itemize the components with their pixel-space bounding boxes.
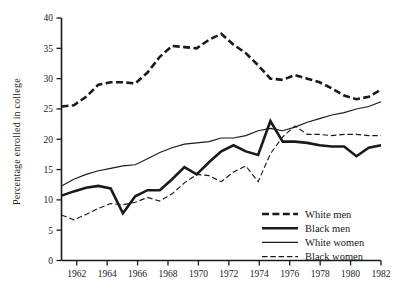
line-chart: Percentage enrolled in college 051015202… xyxy=(0,0,396,307)
legend-label: Black women xyxy=(305,251,364,262)
series-line xyxy=(62,126,382,220)
y-tick-label: 0 xyxy=(48,256,53,266)
x-tick-label: 1962 xyxy=(67,269,86,279)
x-tick-label: 1976 xyxy=(280,269,299,279)
series-line xyxy=(62,34,382,107)
y-axis: 0510152025303540 xyxy=(44,13,62,266)
x-tick-label: 1966 xyxy=(128,269,147,279)
chart-figure: Percentage enrolled in college 051015202… xyxy=(0,0,396,307)
x-tick-group: 1962196419661968197019721974197619781980… xyxy=(67,261,391,280)
x-tick-label: 1968 xyxy=(159,269,178,279)
data-series-group xyxy=(62,34,382,220)
y-axis-label-group: Percentage enrolled in college xyxy=(11,78,22,205)
legend-label: White women xyxy=(305,237,365,248)
chart-legend: White menBlack menWhite womenBlack women xyxy=(262,209,365,263)
series-line xyxy=(62,121,382,213)
x-axis: 1962196419661968197019721974197619781980… xyxy=(62,261,391,280)
x-tick-label: 1972 xyxy=(219,269,238,279)
y-tick-label: 35 xyxy=(44,44,54,54)
x-tick-label: 1982 xyxy=(372,269,391,279)
y-tick-label: 20 xyxy=(44,135,54,145)
y-tick-label: 25 xyxy=(44,104,54,114)
y-tick-label: 5 xyxy=(48,226,53,236)
x-tick-label: 1978 xyxy=(311,269,330,279)
legend-label: Black men xyxy=(305,223,351,234)
x-tick-label: 1964 xyxy=(98,269,117,279)
x-tick-label: 1970 xyxy=(189,269,208,279)
y-tick-label: 15 xyxy=(44,165,54,175)
x-tick-label: 1980 xyxy=(341,269,360,279)
y-axis-label: Percentage enrolled in college xyxy=(11,78,22,205)
y-tick-group: 0510152025303540 xyxy=(44,13,62,266)
y-tick-label: 10 xyxy=(44,195,54,205)
x-tick-label: 1974 xyxy=(250,269,269,279)
legend-label: White men xyxy=(305,209,352,220)
y-tick-label: 30 xyxy=(44,74,54,84)
series-line xyxy=(62,102,382,186)
y-tick-label: 40 xyxy=(44,13,54,23)
